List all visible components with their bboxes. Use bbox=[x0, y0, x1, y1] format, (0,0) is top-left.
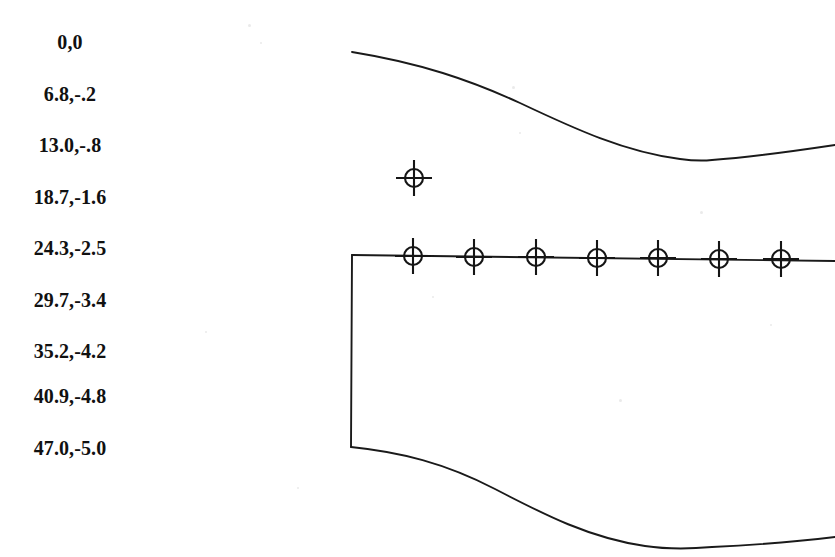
scan-speck bbox=[248, 24, 251, 27]
crosshair-target-icon bbox=[518, 239, 554, 275]
scan-speck bbox=[519, 132, 521, 134]
contour-curves bbox=[351, 52, 835, 548]
scan-speck bbox=[260, 42, 262, 44]
lower-contour bbox=[351, 447, 835, 548]
scan-speck bbox=[432, 296, 434, 298]
crosshair-target-icon bbox=[701, 241, 737, 277]
crosshair-target-icon bbox=[640, 240, 676, 276]
crosshair-target-icon bbox=[396, 160, 432, 196]
scan-speck bbox=[205, 331, 207, 333]
figure-page: 0,06.8,-.213.0,-.818.7,-1.624.3,-2.529.7… bbox=[0, 0, 835, 557]
scan-speck bbox=[297, 487, 299, 489]
crosshair-target-icon bbox=[456, 239, 492, 275]
scan-speck bbox=[512, 86, 515, 89]
scan-speck bbox=[700, 211, 703, 214]
upper-contour bbox=[352, 52, 835, 161]
scan-speck bbox=[770, 324, 772, 326]
crosshair-target-icon bbox=[763, 241, 799, 277]
crosshair-target-icon bbox=[395, 238, 431, 274]
left-vertical-edge bbox=[351, 255, 352, 447]
scan-speck bbox=[619, 399, 622, 402]
profile-figure bbox=[0, 0, 835, 557]
crosshair-target-icon bbox=[579, 240, 615, 276]
